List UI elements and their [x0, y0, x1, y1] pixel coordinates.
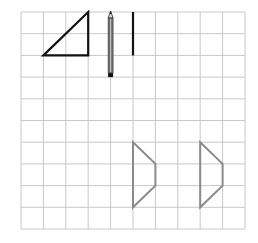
pencil-icon	[108, 11, 113, 77]
pencil-end	[108, 73, 113, 77]
background	[0, 0, 258, 243]
grid-drawing-canvas	[0, 0, 258, 243]
pencil-highlight	[110, 19, 111, 72]
